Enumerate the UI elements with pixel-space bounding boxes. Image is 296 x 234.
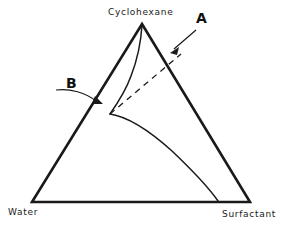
lower-phase-boundary-curve <box>110 114 218 201</box>
ternary-phase-diagram <box>0 0 296 234</box>
vertex-label-surfactant: Surfactant <box>222 209 276 219</box>
vertex-label-water: Water <box>8 207 38 217</box>
annotation-label-b: B <box>66 75 77 91</box>
vertex-label-cyclohexane: Cyclohexane <box>108 7 173 17</box>
annotation-label-a: A <box>196 10 207 26</box>
tie-line-dashed <box>110 54 181 114</box>
figure-canvas: Cyclohexane Water Surfactant A B <box>0 0 296 234</box>
annotation-a-arrow <box>170 30 196 55</box>
ternary-triangle-outline <box>32 24 250 202</box>
